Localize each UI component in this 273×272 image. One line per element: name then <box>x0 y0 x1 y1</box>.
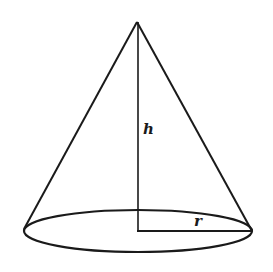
height-label: h <box>143 120 154 138</box>
radius-label: r <box>194 212 203 230</box>
cone-left-edge <box>24 22 137 229</box>
cone-right-edge <box>137 22 252 231</box>
cone-diagram: h r <box>0 0 273 272</box>
